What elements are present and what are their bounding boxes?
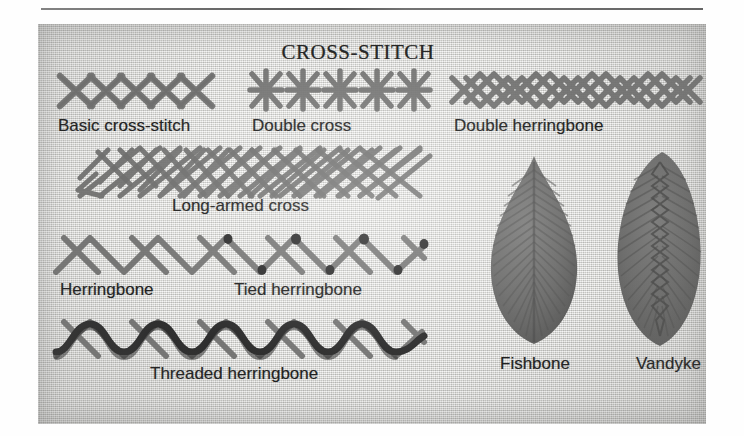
label-fishbone: Fishbone	[500, 354, 570, 374]
sample-herringbone	[56, 228, 428, 280]
threaded-herringbone-illustration	[56, 310, 428, 364]
double-cross-illustration	[250, 68, 440, 112]
herringbone-illustration	[56, 228, 428, 280]
long-armed-cross-illustration	[78, 140, 438, 202]
label-double-cross: Double cross	[252, 116, 351, 136]
double-herringbone-illustration	[452, 66, 704, 114]
label-basic-cross-stitch: Basic cross-stitch	[58, 116, 190, 136]
header-rule	[41, 8, 703, 10]
page-title: CROSS-STITCH	[38, 40, 706, 65]
cross-stitch-sampler-photo: CROSS-STITCH Basic cross-stitch	[38, 24, 706, 424]
sample-threaded-herringbone	[56, 310, 428, 364]
sample-fishbone	[478, 152, 590, 352]
document-page: CROSS-STITCH Basic cross-stitch	[0, 0, 744, 436]
label-threaded-herringbone: Threaded herringbone	[150, 364, 318, 384]
sample-long-armed-cross	[78, 140, 438, 202]
label-long-armed-cross: Long-armed cross	[172, 196, 309, 216]
vandyke-illustration	[604, 146, 706, 354]
sample-double-cross	[250, 68, 440, 112]
label-double-herringbone: Double herringbone	[454, 116, 603, 136]
page-title-text: CROSS-STITCH	[281, 40, 434, 65]
label-vandyke: Vandyke	[636, 354, 701, 374]
label-tied-herringbone: Tied herringbone	[234, 280, 362, 300]
sample-double-herringbone	[452, 66, 704, 114]
fishbone-illustration	[478, 152, 590, 352]
sample-vandyke	[604, 146, 706, 354]
sample-basic-cross-stitch	[56, 70, 234, 112]
label-herringbone: Herringbone	[60, 280, 154, 300]
basic-cross-stitch-illustration	[56, 70, 234, 112]
